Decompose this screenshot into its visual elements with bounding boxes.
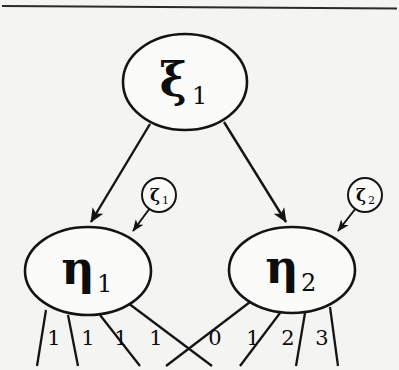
- path-xi1-to-eta2: [224, 122, 286, 222]
- loading-labels: 1 1 1 1 0 1 2 3: [47, 326, 328, 350]
- node-eta2-symbol: η: [265, 240, 298, 294]
- loading-label-eta2-3: 2: [281, 326, 294, 350]
- loading-line-eta1-1: [37, 310, 46, 366]
- loading-line-eta1-4: [128, 303, 212, 366]
- node-zeta2-subscript: 2: [368, 194, 375, 207]
- sem-path-diagram: ξ 1 η 1 η 2 ζ 1 ζ 2 1 1 1 1 0 1 2 3: [0, 0, 399, 370]
- node-eta1-subscript: 1: [97, 270, 112, 298]
- loading-line-eta2-3: [296, 313, 305, 366]
- node-zeta1-subscript: 1: [162, 194, 169, 207]
- node-zeta2-symbol: ζ: [356, 185, 366, 205]
- node-xi1-subscript: 1: [192, 82, 207, 110]
- path-zeta1-to-eta1: [133, 208, 150, 231]
- node-xi1-symbol: ξ: [159, 53, 186, 107]
- path-xi1-to-eta1: [91, 124, 150, 222]
- diagram-canvas: ξ 1 η 1 η 2 ζ 1 ζ 2 1 1 1 1 0 1 2 3: [0, 0, 399, 370]
- loading-label-eta2-1: 0: [208, 326, 221, 350]
- loading-label-eta1-2: 1: [81, 326, 94, 350]
- node-eta1-symbol: η: [61, 241, 94, 295]
- node-eta2-subscript: 2: [301, 269, 316, 297]
- loading-label-eta1-3: 1: [114, 326, 127, 350]
- loading-label-eta2-4: 3: [315, 326, 328, 350]
- loading-label-eta1-1: 1: [47, 326, 60, 350]
- node-zeta1-symbol: ζ: [150, 185, 160, 205]
- top-horizontal-rule: [2, 6, 397, 9]
- loading-label-eta1-4: 1: [149, 326, 162, 350]
- loading-line-eta2-4: [330, 307, 338, 366]
- loading-line-eta1-2: [68, 315, 78, 366]
- path-zeta2-to-eta2: [338, 208, 356, 231]
- loading-label-eta2-2: 1: [246, 326, 259, 350]
